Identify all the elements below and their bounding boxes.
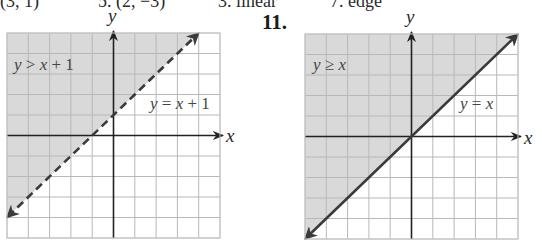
x-axis-label: x xyxy=(225,125,235,146)
boundary-line-label: y = x xyxy=(458,94,494,113)
y-axis-label: y xyxy=(106,5,117,26)
graph-y-geq-x: xyy ≥ xy = x xyxy=(305,6,533,239)
x-axis-label: x xyxy=(523,127,533,148)
region-label: y > x + 1 xyxy=(12,55,74,74)
graph-y-greater-than-x-plus-1: xyy > x + 1y = x + 1 xyxy=(7,5,235,238)
region-label: y ≥ x xyxy=(311,55,346,74)
boundary-line-label: y = x + 1 xyxy=(148,94,210,113)
y-axis-label: y xyxy=(404,6,415,27)
graphs-canvas: xyy > x + 1y = x + 1 xyy ≥ xy = x xyxy=(0,0,542,247)
